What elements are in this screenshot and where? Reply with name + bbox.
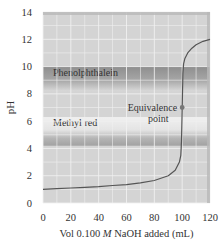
- x-tick-label: 20: [66, 212, 77, 223]
- y-tick-label: 4: [27, 143, 33, 154]
- y-tick-label: 12: [22, 34, 33, 45]
- x-axis-label: Vol 0.100 M NaOH added (mL): [60, 228, 194, 240]
- y-tick-label: 8: [27, 88, 32, 99]
- y-tick-label: 6: [27, 116, 32, 127]
- band-label: Methyl red: [53, 117, 97, 128]
- y-axis-label: pH: [4, 101, 16, 115]
- x-tick-label: 100: [174, 212, 190, 223]
- titration-chart: PhenolphthaleinMethyl red Equivalencepoi…: [0, 0, 222, 247]
- x-tick-label: 60: [121, 212, 132, 223]
- equivalence-label-line2: point: [148, 113, 169, 124]
- chart-canvas: PhenolphthaleinMethyl red Equivalencepoi…: [0, 0, 222, 247]
- y-tick-label: 2: [27, 170, 32, 181]
- x-tick-label: 120: [202, 212, 218, 223]
- frame-top: [43, 12, 210, 15]
- y-tick-label: 0: [27, 198, 32, 209]
- x-axis-label-part: NaOH added (mL): [112, 228, 194, 240]
- x-axis-label-part: Vol 0.100: [60, 228, 103, 239]
- band-label: Phenolphthalein: [53, 67, 118, 78]
- x-axis-ticks: 020406080100120: [40, 212, 218, 223]
- x-tick-label: 40: [93, 212, 104, 223]
- equivalence-point-dot: [180, 105, 185, 110]
- y-tick-label: 14: [22, 7, 33, 18]
- x-tick-label: 0: [40, 212, 45, 223]
- x-tick-label: 80: [149, 212, 160, 223]
- y-axis-ticks: 02468101214: [22, 7, 33, 209]
- y-tick-label: 10: [22, 61, 33, 72]
- equivalence-label-line1: Equivalence: [128, 102, 178, 113]
